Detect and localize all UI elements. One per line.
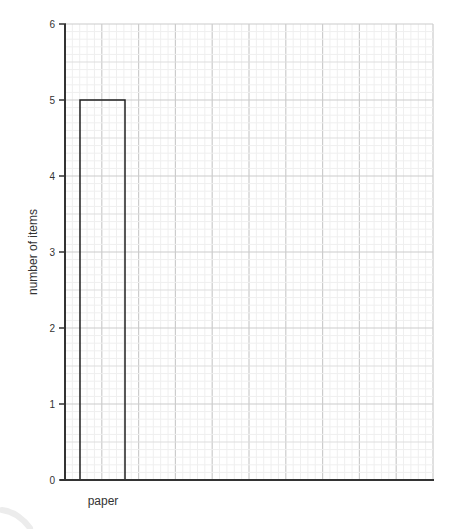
y-tick-label-3: 3 xyxy=(49,247,55,258)
y-tick-label-2: 2 xyxy=(49,323,55,334)
y-tick-label-6: 6 xyxy=(49,19,55,30)
corner-watermark-icon xyxy=(2,510,30,528)
y-tick-label-5: 5 xyxy=(49,95,55,106)
y-axis-title: number of items xyxy=(26,209,40,295)
grid xyxy=(65,24,433,480)
bar-chart: 6 5 4 3 2 1 0 number of items paper xyxy=(0,0,459,529)
x-category-label-paper: paper xyxy=(88,494,119,508)
y-tick-label-1: 1 xyxy=(49,399,55,410)
y-tick-label-0: 0 xyxy=(49,475,55,486)
y-tick-label-4: 4 xyxy=(49,171,55,182)
